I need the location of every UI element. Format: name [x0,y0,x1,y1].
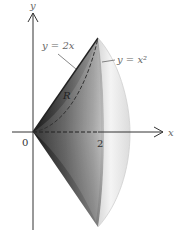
region-label-R: R [62,90,71,101]
solid-inner-hollow [33,38,101,222]
curve-label-y-equals-2x: y = 2x [41,40,75,51]
x-axis-label: x [168,127,174,138]
x-tick-label-2: 2 [97,138,103,149]
origin-label: 0 [22,137,28,148]
solid-of-revolution-diagram: y x 0 2 y = 2x y = x² R [0,0,185,230]
leader-y-equals-2x [58,54,76,69]
curve-label-y-equals-x-squared: y = x² [116,54,147,65]
y-axis-label: y [29,0,36,11]
